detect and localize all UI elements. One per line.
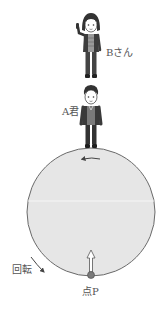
rotation-label: 回転 [12,264,32,276]
ball-icon [88,272,95,279]
point-p-label: 点P [82,286,99,298]
person-b-label: Bさん [106,47,133,59]
rotation-arrow-icon [31,257,43,271]
person-a-label: A君 [62,106,79,118]
person-b-figure [76,13,100,78]
person-a-figure [81,85,101,148]
